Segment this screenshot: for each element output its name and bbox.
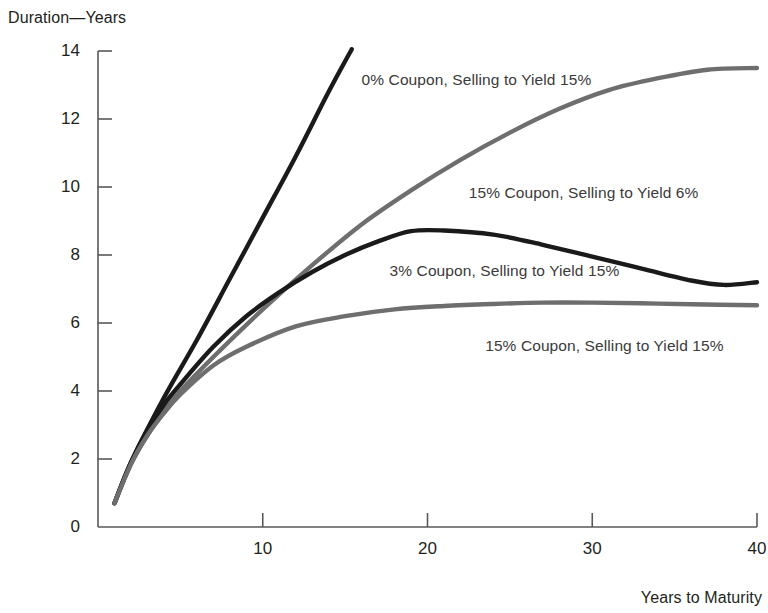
- y-tick-label: 6: [24, 313, 80, 333]
- x-tick-label: 40: [748, 539, 767, 559]
- y-tick-label: 14: [24, 41, 80, 61]
- y-tick-label: 8: [24, 245, 80, 265]
- series-label: 3% Coupon, Selling to Yield 15%: [390, 262, 620, 280]
- tick-marks: [98, 51, 757, 527]
- y-tick-label: 0: [24, 517, 80, 537]
- x-tick-label: 10: [253, 539, 272, 559]
- x-tick-label: 30: [583, 539, 602, 559]
- y-tick-label: 12: [24, 109, 80, 129]
- series-curve: [114, 68, 757, 503]
- x-tick-label: 20: [418, 539, 437, 559]
- y-tick-label: 10: [24, 177, 80, 197]
- series-label: 0% Coupon, Selling to Yield 15%: [362, 71, 592, 89]
- series-label: 15% Coupon, Selling to Yield 6%: [469, 184, 699, 202]
- y-tick-label: 4: [24, 381, 80, 401]
- axis-lines: [98, 51, 757, 527]
- series-label: 15% Coupon, Selling to Yield 15%: [485, 337, 723, 355]
- series-curve: [114, 302, 757, 503]
- duration-vs-maturity-chart: Duration—Years Years to Maturity 0246810…: [0, 0, 768, 613]
- y-tick-label: 2: [24, 449, 80, 469]
- plot-area: [0, 0, 768, 613]
